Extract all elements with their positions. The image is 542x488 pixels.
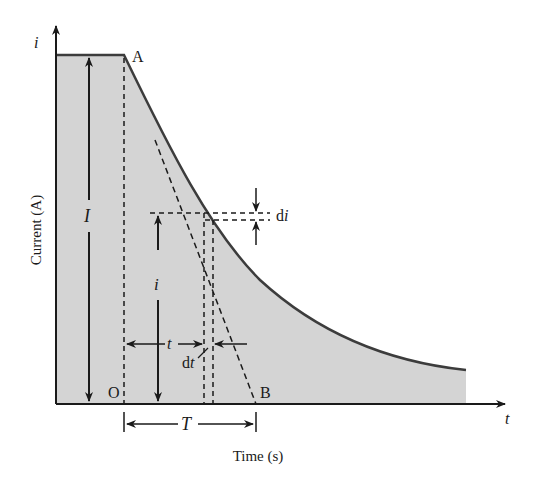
y-axis-label: Current (A) <box>28 195 45 265</box>
x-axis-symbol: t <box>505 410 510 427</box>
point-b-label: B <box>260 384 271 401</box>
y-axis-symbol: i <box>34 34 38 51</box>
label-t: t <box>167 335 172 352</box>
x-axis-label: Time (s) <box>233 448 284 465</box>
shaded-area <box>56 55 466 404</box>
label-i: i <box>154 275 159 294</box>
label-T: T <box>181 414 193 434</box>
point-o-label: O <box>108 384 120 401</box>
label-dt: dt <box>182 354 195 371</box>
current-decay-diagram: i t A O B I i t di dt T Time (s) Current… <box>0 0 542 488</box>
point-a-label: A <box>132 48 144 65</box>
label-di: di <box>276 207 288 224</box>
label-I: I <box>83 206 91 226</box>
